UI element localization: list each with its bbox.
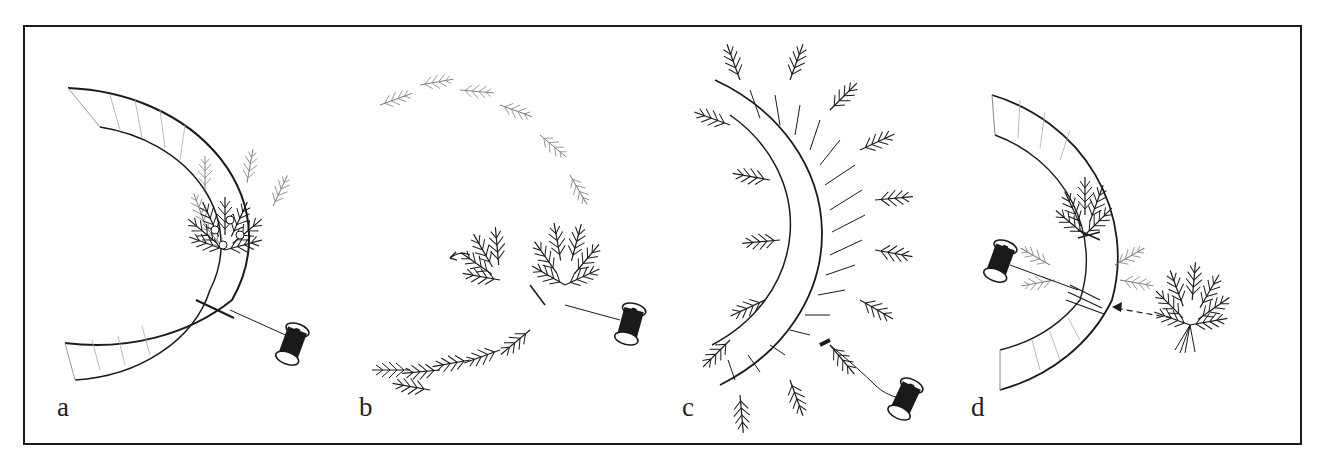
- spool-icon: [613, 301, 647, 348]
- panel-c-drawing: [692, 42, 926, 434]
- spool-icon: [274, 320, 311, 368]
- panel-label-c: c: [682, 394, 694, 421]
- panel-label-b: b: [359, 394, 373, 421]
- panel-d-drawing: [982, 95, 1234, 390]
- panel-label-d: d: [971, 394, 985, 421]
- spool-icon: [886, 375, 926, 423]
- panel-label-a: a: [57, 394, 69, 421]
- illustration: [0, 0, 1326, 460]
- spool-icon: [982, 237, 1019, 285]
- panel-a-drawing: [65, 88, 311, 380]
- panel-b-drawing: [372, 72, 647, 398]
